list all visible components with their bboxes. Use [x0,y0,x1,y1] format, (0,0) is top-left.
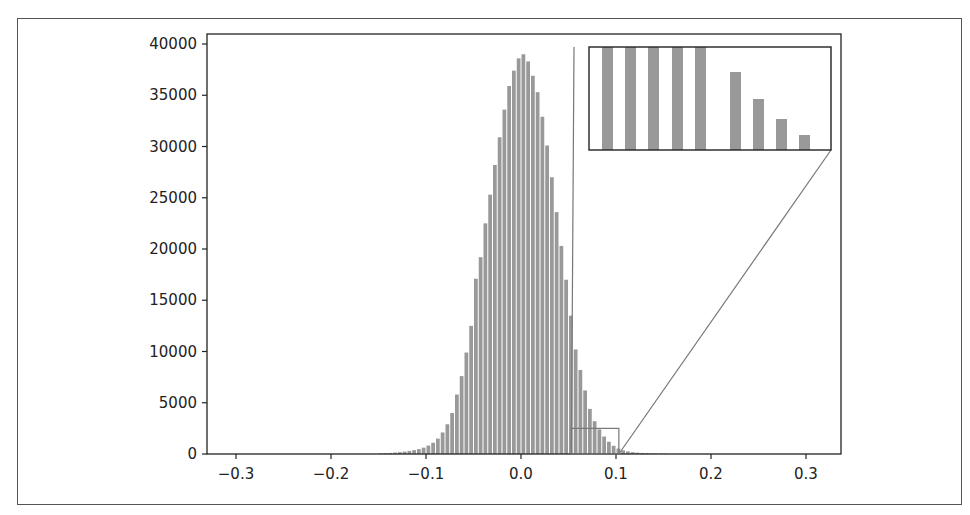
histogram-bar [455,395,459,454]
histogram-bar [593,421,597,454]
histogram-bar [488,195,492,454]
histogram-bar [422,448,426,454]
inset-bar [695,47,706,150]
y-tick-label: 35000 [149,86,197,104]
x-axis-ticks: −0.3−0.2−0.10.00.10.20.3 [218,454,818,483]
histogram-bar [493,165,497,454]
histogram-bar [579,370,583,454]
histogram-bar [541,117,545,454]
inset-bar [625,47,636,150]
histogram-bar [545,145,549,454]
inset-bar [672,47,683,150]
histogram-bar [446,424,450,454]
histogram-bar [574,349,578,454]
y-tick-label: 15000 [149,291,197,309]
histogram-bar [522,54,526,454]
histogram-bar [536,92,540,454]
inset-bar [648,47,659,150]
y-tick-label: 40000 [149,35,197,53]
histogram-bar [612,446,616,454]
histogram-bar [479,257,483,454]
x-tick-label: 0.1 [604,465,628,483]
x-tick-label: −0.3 [218,465,254,483]
y-tick-label: 10000 [149,343,197,361]
histogram-bar [512,71,516,454]
histogram-chart: 0500010000150002000025000300003500040000… [0,0,970,515]
histogram-bar [484,223,488,454]
histogram-bar [465,353,469,454]
inset-bar [776,119,787,150]
x-tick-label: 0.0 [509,465,533,483]
histogram-bar [427,446,431,454]
histogram-bar [469,326,473,454]
histogram-bar [564,280,568,454]
histogram-bar [417,449,421,454]
histogram-bar [507,86,511,454]
histogram-bar [531,76,535,454]
histogram-bar [474,279,478,454]
histogram-bar [450,413,454,454]
histogram-bar [583,390,587,454]
histogram-bar [607,442,611,454]
histogram-bar [602,437,606,454]
histogram-bar [588,409,592,454]
histogram-bar [555,212,559,454]
histogram-bar [431,443,435,454]
histogram-bar [560,246,564,454]
x-tick-label: −0.2 [313,465,349,483]
x-tick-label: −0.1 [408,465,444,483]
x-tick-label: 0.2 [699,465,723,483]
y-tick-label: 25000 [149,189,197,207]
y-tick-label: 30000 [149,138,197,156]
inset-bar [753,99,764,150]
inset-zoom-panel [589,47,831,150]
y-tick-label: 0 [187,445,197,463]
histogram-bar [441,432,445,454]
histogram-bar [517,58,521,454]
inset-bar [602,47,613,150]
inset-connector-right [619,150,831,454]
inset-bar [799,135,810,150]
histogram-bar [436,439,440,454]
x-tick-label: 0.3 [794,465,818,483]
histogram-bar [550,177,554,454]
y-axis-ticks: 0500010000150002000025000300003500040000 [149,35,207,463]
histogram-bar [598,429,602,454]
histogram-bar [460,376,464,454]
histogram-bar [498,137,502,454]
y-tick-label: 5000 [159,394,197,412]
histogram-bar [503,110,507,454]
inset-bar [730,72,741,150]
y-tick-label: 20000 [149,240,197,258]
histogram-bar [526,61,530,454]
